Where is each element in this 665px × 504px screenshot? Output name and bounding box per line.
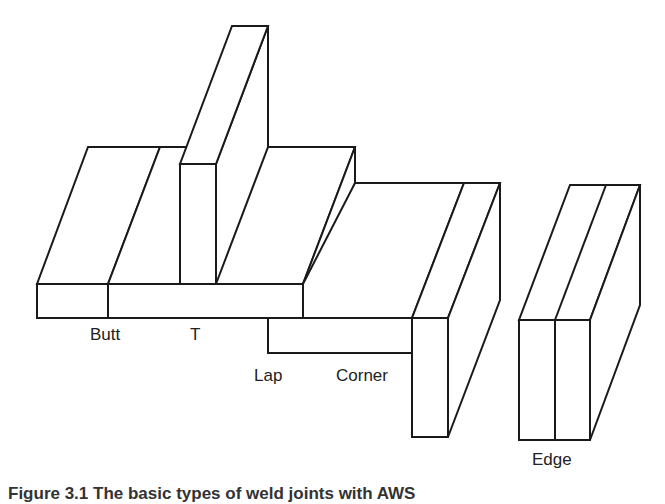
figure-caption: Figure 3.1 The basic types of weld joint… [8, 484, 415, 504]
corner-plate-front [412, 318, 448, 437]
label-edge: Edge [532, 450, 572, 470]
label-butt: Butt [90, 325, 120, 345]
t-upright-front [180, 164, 216, 284]
label-lap: Lap [254, 366, 282, 386]
label-t: T [190, 325, 200, 345]
lap-plate-front [268, 318, 412, 353]
t-base-plate-front [108, 284, 303, 318]
butt-left-plate-front [37, 284, 108, 318]
label-corner: Corner [336, 366, 388, 386]
